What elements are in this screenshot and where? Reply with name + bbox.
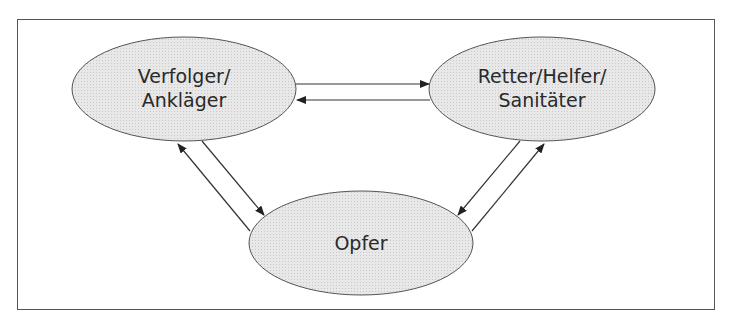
arrow-victim-to-rescuer <box>472 144 544 231</box>
label-rescuer-line1: Retter/Helfer/ <box>442 64 642 88</box>
arrow-persecutor-to-victim <box>202 141 264 215</box>
label-victim: Opfer <box>261 231 461 255</box>
arrow-victim-to-persecutor <box>178 144 250 231</box>
label-persecutor-line1: Verfolger/ <box>84 64 284 88</box>
diagram-canvas <box>0 0 730 327</box>
label-victim-line1: Opfer <box>261 231 461 255</box>
label-rescuer: Retter/Helfer/ Sanitäter <box>442 64 642 112</box>
label-persecutor: Verfolger/ Ankläger <box>84 64 284 112</box>
arrow-rescuer-to-victim <box>458 141 520 215</box>
label-rescuer-line2: Sanitäter <box>442 88 642 112</box>
label-persecutor-line2: Ankläger <box>84 88 284 112</box>
